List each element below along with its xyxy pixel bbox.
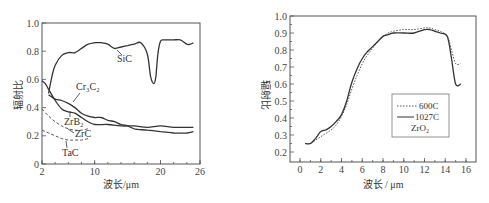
arrow-cr3c2 [73, 93, 80, 102]
right-x-tick-label: 6 [360, 164, 365, 175]
left-y-tick-label: 0 [34, 159, 39, 170]
left-y-tick-label: 0.6 [27, 74, 40, 85]
left-series-sic [49, 40, 194, 94]
legend-label-1027c: 1027C [415, 112, 439, 122]
legend: 600C 1027C ZrO₂ [392, 94, 449, 137]
right-x-tick-label: 12 [420, 164, 430, 175]
left-y-tick-label: 0.8 [27, 46, 40, 57]
legend-title: ZrO₂ [411, 123, 429, 133]
right-x-tick-label: 4 [339, 164, 344, 175]
label-zrc: ZrC [75, 128, 91, 139]
legend-label-600c: 600C [419, 101, 439, 111]
left-plot-frame [42, 23, 200, 164]
figure: 210202600.20.40.60.81.0 辐射比 波长/μm SiC Cr… [0, 0, 489, 203]
right-x-tick-label: 16 [461, 164, 471, 175]
right-y-tick-label: 0.7 [275, 62, 288, 73]
label-zrb2: ZrB₂ [64, 116, 84, 127]
right-y-tick-label: 0.8 [275, 45, 288, 56]
left-x-tick-label: 26 [195, 166, 205, 177]
right-x-axis-label: 波长 / μm [363, 178, 404, 190]
right-x-tick-label: 2 [318, 164, 323, 175]
right-x-tick-label: 10 [399, 164, 409, 175]
right-y-tick-label: 0.2 [275, 147, 288, 158]
right-chart: 02468101214160.20.30.40.50.60.70.80.91.0… [260, 11, 476, 191]
right-y-tick-label: 0.9 [275, 28, 288, 39]
right-x-tick-label: 14 [440, 164, 450, 175]
label-sic: SiC [117, 53, 132, 64]
right-y-tick-label: 1.0 [275, 11, 288, 22]
left-y-axis-label: 辐射比 [12, 80, 24, 110]
right-y-tick-label: 0.6 [275, 79, 288, 90]
left-y-tick-label: 1.0 [27, 18, 40, 29]
right-x-tick-label: 0 [298, 164, 303, 175]
label-tac: TaC [62, 147, 79, 158]
left-x-tick-label: 2 [40, 166, 45, 177]
left-chart: 210202600.20.40.60.81.0 辐射比 波长/μm SiC Cr… [12, 18, 205, 191]
left-x-axis-label: 波长/μm [103, 178, 139, 190]
left-x-tick-label: 10 [90, 166, 100, 177]
right-y-tick-label: 0.4 [275, 113, 288, 124]
right-x-tick-label: 8 [381, 164, 386, 175]
right-y-tick-label: 0.3 [275, 130, 288, 141]
right-y-tick-label: 0.5 [275, 96, 288, 107]
label-cr3c2: Cr₃C₂ [76, 81, 100, 92]
right-y-axis-label: 辐射比 [260, 80, 272, 110]
left-x-tick-label: 20 [156, 166, 166, 177]
left-y-tick-label: 0.4 [27, 102, 40, 113]
left-y-tick-label: 0.2 [27, 130, 40, 141]
